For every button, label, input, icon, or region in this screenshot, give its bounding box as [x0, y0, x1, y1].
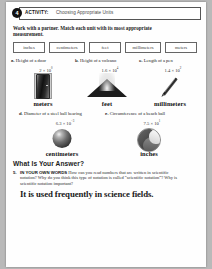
beach-ball-segment-3 [149, 130, 161, 144]
problem-b-text: Height of a volcano [80, 58, 116, 63]
unit-chip-centimeters[interactable]: centimeters [49, 42, 85, 53]
problem-d-letter: d. [19, 111, 23, 116]
problem-d-mantissa: 6.3 × 10 [56, 120, 71, 125]
what-is-your-answer-heading: What Is Your Answer? [13, 160, 201, 167]
problem-a-value: 2 × 100 [11, 66, 75, 73]
problem-b-label: b. Height of a volcano [75, 58, 139, 64]
problem-a-letter: a. [11, 58, 15, 63]
problem-c: c. Length of a pen 1.4 × 102 [139, 58, 201, 73]
question-5-row: 5. IN YOUR OWN WORDS How can you read nu… [13, 170, 201, 187]
artwork-cell-b: feet [75, 73, 139, 107]
problem-a-mantissa: 2 × 10 [39, 67, 51, 72]
problem-c-label: c. Length of a pen [139, 58, 201, 64]
unit-chip-meters[interactable]: meters [165, 42, 197, 53]
problem-e-letter: e. [105, 111, 109, 116]
problem-a-exponent: 0 [51, 66, 53, 70]
problem-a: a. Height of a door 2 × 100 [11, 58, 75, 73]
activity-label: ACTIVITY: [25, 10, 48, 15]
steel-ball-icon [19, 126, 105, 149]
activity-title: Choosing Appropriate Units [56, 10, 113, 15]
problem-b-value: 1.6 × 104 [75, 66, 139, 73]
problem-row-1: a. Height of a door 2 × 100 b. Height of… [11, 58, 201, 73]
problem-e-value: 7.5 × 101 [105, 119, 193, 126]
worksheet-page: 4 ACTIVITY: Choosing Appropriate Units W… [6, 2, 206, 267]
answer-c: millimeters [139, 100, 201, 107]
problem-a-label: a. Height of a door [11, 58, 75, 64]
problem-b: b. Height of a volcano 1.6 × 104 [75, 58, 139, 73]
answer-d: centimeters [19, 150, 105, 157]
student-answer-5[interactable]: It is used frequently in science fields. [20, 189, 201, 199]
problem-e-text: Circumference of a beach ball [110, 111, 165, 116]
problem-b-exponent: 4 [117, 66, 119, 70]
problem-e-label: e. Circumference of a beach ball [105, 111, 193, 117]
directions-text: Work with a partner. Match each unit wit… [13, 25, 153, 38]
problem-c-value: 1.4 × 102 [139, 66, 201, 73]
problem-c-text: Length of a pen [144, 58, 173, 63]
problem-b-mantissa: 1.6 × 10 [102, 67, 117, 72]
problem-e-mantissa: 7.5 × 10 [144, 120, 159, 125]
artwork-row-2: centimeters inches [11, 126, 201, 157]
artwork-row-1: meters feet millimeters [11, 73, 201, 107]
beach-ball-icon [105, 126, 193, 149]
artwork-cell-e: inches [105, 126, 193, 157]
worksheet-content: 4 ACTIVITY: Choosing Appropriate Units W… [11, 7, 201, 229]
question-5-number: 5. [13, 170, 20, 187]
pen-body-shape [163, 78, 178, 96]
activity-header: 4 ACTIVITY: Choosing Appropriate Units [19, 7, 201, 20]
unit-chip-feet[interactable]: feet [89, 42, 121, 53]
problem-e-exponent: 1 [159, 119, 161, 123]
problem-c-mantissa: 1.4 × 10 [165, 67, 180, 72]
problem-d: d. Diameter of a steel ball bearing 6.3 … [11, 111, 105, 126]
door-icon [11, 73, 75, 99]
question-5-prompt: IN YOUR OWN WORDS [20, 170, 67, 175]
problem-b-letter: b. [75, 58, 79, 63]
problem-d-exponent: −3 [71, 119, 74, 123]
problem-d-text: Diameter of a steel ball bearing [24, 111, 82, 116]
volcano-eruption-shape [99, 73, 115, 91]
problem-d-label: d. Diameter of a steel ball bearing [19, 111, 105, 117]
beach-ball-shape [137, 128, 161, 152]
steel-ball-shape [53, 129, 72, 148]
problem-a-text: Height of a door [16, 58, 46, 63]
unit-chip-row: inches centimeters feet millimeters mete… [13, 42, 201, 53]
volcano-icon [75, 73, 139, 99]
unit-chip-millimeters[interactable]: millimeters [125, 42, 161, 53]
artwork-cell-d: centimeters [11, 126, 105, 157]
artwork-cell-a: meters [11, 73, 75, 107]
question-5-text: IN YOUR OWN WORDS How can you read numbe… [20, 170, 182, 187]
artwork-cell-c: millimeters [139, 73, 201, 107]
door-panel-shape [36, 74, 50, 99]
problem-row-2: d. Diameter of a steel ball bearing 6.3 … [11, 111, 201, 126]
pen-icon [139, 73, 201, 99]
activity-number-badge: 4 [12, 8, 22, 18]
problem-d-value: 6.3 × 10−3 [19, 119, 105, 126]
problem-c-letter: c. [139, 58, 143, 63]
problem-e: e. Circumference of a beach ball 7.5 × 1… [105, 111, 193, 126]
problem-c-exponent: 2 [180, 66, 182, 70]
answer-b: feet [75, 100, 139, 107]
unit-chip-inches[interactable]: inches [13, 42, 45, 53]
answer-a: meters [11, 100, 75, 107]
